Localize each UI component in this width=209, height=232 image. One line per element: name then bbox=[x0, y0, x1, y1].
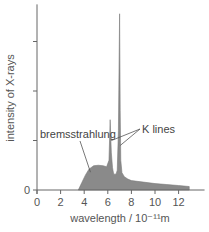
x-tick-label: 0 bbox=[34, 196, 40, 208]
y-axis-label: intensity of X-rays bbox=[4, 54, 16, 142]
spectrum-area bbox=[78, 14, 189, 190]
x-tick-label: 12 bbox=[172, 196, 184, 208]
x-tick-label: 2 bbox=[58, 196, 64, 208]
annotation-bremsstrahlung: bremsstrahlung bbox=[40, 128, 116, 140]
bremsstrahlung-leader bbox=[80, 141, 90, 172]
chart: 0246810120 intensity of X-rays wavelengt… bbox=[0, 0, 209, 232]
k-lines-leader bbox=[120, 129, 140, 146]
x-axis-label: wavelength / 10⁻¹¹m bbox=[69, 212, 170, 224]
x-tick-label: 10 bbox=[149, 196, 161, 208]
y-tick-label: 0 bbox=[24, 184, 30, 196]
annotation-k-lines: K lines bbox=[142, 123, 176, 135]
x-tick-label: 4 bbox=[81, 196, 87, 208]
x-tick-label: 8 bbox=[128, 196, 134, 208]
x-tick-label: 6 bbox=[105, 196, 111, 208]
